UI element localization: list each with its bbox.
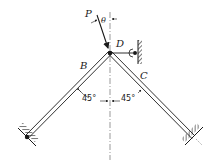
left-pin-support — [18, 123, 38, 146]
wall-roller-support — [129, 40, 142, 64]
label-c: C — [140, 70, 148, 81]
label-p: P — [84, 8, 92, 19]
label-d: D — [115, 38, 124, 49]
label-angle-left: 45° — [82, 94, 96, 103]
label-b: B — [79, 60, 87, 71]
joint-d — [108, 51, 113, 56]
right-fixed-support — [181, 123, 203, 145]
label-theta: θ — [101, 16, 106, 25]
member-b — [26, 52, 112, 139]
truss-diagram: P θ D B C 45° 45° — [0, 0, 217, 161]
label-angle-right: 45° — [121, 94, 135, 103]
